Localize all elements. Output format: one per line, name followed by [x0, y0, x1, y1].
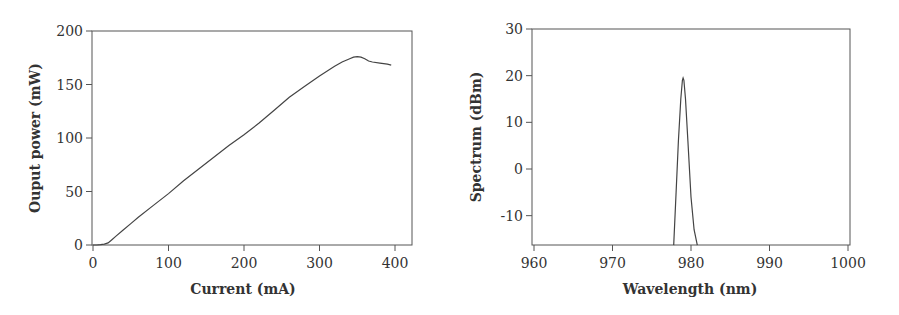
- left-y-tick-label: 150: [56, 77, 83, 93]
- chart-left: 0100200300400050100150200 Current (mA) O…: [27, 23, 412, 297]
- left-y-tick-label: 50: [65, 184, 83, 200]
- plot-frame-left: [92, 31, 412, 245]
- left-y-tick-label: 0: [74, 237, 83, 253]
- left-y-tick-label: 100: [56, 130, 83, 146]
- right-y-tick-label: 30: [505, 21, 523, 37]
- right-y-tick-label: 0: [514, 161, 523, 177]
- right-y-tick-label: 20: [505, 68, 523, 84]
- left-x-tick-label: 200: [231, 255, 258, 271]
- left-x-tick-label: 400: [382, 255, 409, 271]
- left-y-tick-label: 200: [56, 23, 83, 39]
- x-axis-label-left: Current (mA): [190, 281, 295, 297]
- right-x-tick-label: 1000: [830, 255, 866, 271]
- right-y-tick-label: 10: [505, 114, 523, 130]
- right-x-tick-label: 980: [678, 255, 705, 271]
- right-x-tick-label: 990: [756, 255, 783, 271]
- left-x-tick-label: 100: [155, 255, 182, 271]
- chart-right: 9609709809901000-100102030 Wavelength (n…: [468, 21, 866, 297]
- x-axis-label-right: Wavelength (nm): [622, 281, 758, 297]
- right-ticks: 9609709809901000-100102030: [500, 21, 865, 271]
- right-x-tick-label: 960: [521, 255, 548, 271]
- figure: 0100200300400050100150200 Current (mA) O…: [0, 0, 899, 315]
- right-x-tick-label: 970: [599, 255, 626, 271]
- plot-frame-right: [532, 29, 850, 245]
- y-axis-label-right: Spectrum (dBm): [468, 72, 484, 203]
- right-y-tick-label: -10: [500, 208, 523, 224]
- series-output-power: [93, 57, 391, 245]
- left-ticks: 0100200300400050100150200: [56, 23, 408, 271]
- left-x-tick-label: 0: [89, 255, 98, 271]
- y-axis-label-left: Ouput power (mW): [27, 63, 43, 213]
- series-spectrum: [674, 78, 698, 245]
- left-x-tick-label: 300: [306, 255, 333, 271]
